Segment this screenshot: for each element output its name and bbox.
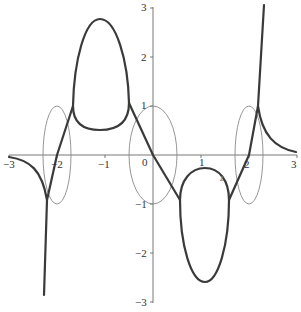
lower-loop <box>180 168 229 282</box>
x-label-1: 1 <box>199 156 205 168</box>
x-label-3: 3 <box>291 158 297 170</box>
x-label-0: 0 <box>142 156 148 168</box>
left-line <box>44 106 73 295</box>
x-tick-labels: −3 −2 −1 0 1 2 3 <box>3 156 297 170</box>
y-label-m3: −3 <box>135 296 147 308</box>
right-line <box>229 5 264 200</box>
x-label-m1: −1 <box>98 158 110 170</box>
y-label-1: 1 <box>141 99 147 111</box>
x-label-2: 2 <box>244 158 250 170</box>
y-label-m1: −1 <box>135 198 147 210</box>
upper-loop <box>73 19 129 130</box>
x-label-m3: −3 <box>3 158 15 170</box>
x-label-m2: −2 <box>51 158 63 170</box>
y-label-m2: −2 <box>135 247 147 259</box>
center-line <box>129 103 180 200</box>
y-label-3: 3 <box>141 1 147 13</box>
plot-canvas: −3 −2 −1 0 1 2 3 3 2 1 −1 −2 −3 z <box>0 0 301 312</box>
annotation-z: z <box>219 172 224 183</box>
curve <box>9 5 296 295</box>
y-tick-labels: 3 2 1 −1 −2 −3 <box>135 1 147 308</box>
right-branch <box>258 106 296 152</box>
y-label-2: 2 <box>141 51 147 63</box>
